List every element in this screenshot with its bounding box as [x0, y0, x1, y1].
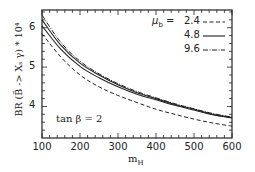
x-tick-label: 300: [108, 141, 128, 152]
legend-mu-sub: b: [158, 21, 162, 29]
tan-beta-annotation: tan β = 2: [56, 113, 102, 124]
x-tick-label: 200: [70, 141, 90, 152]
curve-9-6: [42, 15, 232, 117]
legend-item-2-4: 2.4: [184, 15, 200, 26]
y-tick-label: 5: [29, 60, 35, 71]
curve-4-8-lower-solid-: [42, 26, 232, 118]
legend-item-4-8: 4.8: [184, 29, 200, 40]
x-tick-label: 500: [184, 141, 204, 152]
x-tick-label: 600: [222, 141, 242, 152]
legend-lines: [203, 22, 225, 50]
legend-item-9-6: 9.6: [184, 43, 200, 54]
y-tick-label: 4: [29, 99, 35, 110]
x-axis-label: mH: [128, 153, 144, 167]
y-tick-label: 6: [29, 21, 35, 32]
x-tick-label: 400: [146, 141, 166, 152]
y-axis-label: BR (B̄ -> Xₛ γ) * 10⁴: [13, 5, 24, 135]
x-tick-label: 100: [32, 141, 52, 152]
curves: [42, 15, 232, 126]
x-axis-label-sub: H: [137, 159, 143, 167]
legend-equals: =: [166, 15, 174, 26]
legend-title: μb =: [152, 15, 174, 29]
